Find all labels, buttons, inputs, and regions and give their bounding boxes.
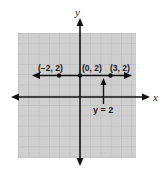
point-label-neg2-2: (−2, 2)	[38, 63, 63, 73]
point-0-2	[78, 73, 82, 77]
grid	[18, 33, 136, 158]
point-3-2	[108, 73, 112, 77]
equation-label: y = 2	[93, 105, 113, 115]
point-label-3-2: (3, 2)	[110, 63, 130, 73]
point-label-0-2: (0, 2)	[82, 63, 102, 73]
coordinate-plane: x y (−2, 2) (0, 2) (3, 2) y = 2	[0, 0, 167, 172]
x-axis-label: x	[152, 91, 158, 103]
point-neg2-2	[57, 73, 61, 77]
y-axis-label: y	[74, 6, 80, 18]
